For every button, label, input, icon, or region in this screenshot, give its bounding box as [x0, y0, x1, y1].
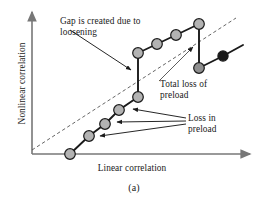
data-point: [171, 30, 182, 41]
data-point: [100, 119, 111, 130]
annotation-total-loss-label: Total loss of preload: [160, 79, 207, 101]
figure-panel: Gap is created due to loosening Total lo…: [0, 0, 269, 204]
loss-annotation-arrow-1: [133, 109, 186, 118]
data-point: [65, 149, 76, 160]
data-point: [84, 131, 95, 142]
data-point-highlighted: [218, 51, 228, 61]
path-segment-upper: [138, 24, 199, 53]
data-point: [194, 19, 205, 30]
data-point: [114, 105, 125, 116]
annotation-gap-label: Gap is created due to loosening: [60, 16, 141, 38]
data-point: [133, 92, 144, 103]
loss-annotation-arrow-2: [117, 121, 186, 122]
data-point: [194, 63, 205, 74]
data-point: [152, 39, 163, 50]
data-point: [133, 48, 144, 59]
annotation-loss-label: Loss in preload: [188, 113, 217, 135]
y-axis-label: Nonlinear correlation: [17, 24, 28, 144]
loss-annotation-arrow-3: [100, 124, 186, 136]
figure-caption: (a): [84, 182, 184, 193]
x-axis-label: Linear correlation: [72, 163, 192, 174]
